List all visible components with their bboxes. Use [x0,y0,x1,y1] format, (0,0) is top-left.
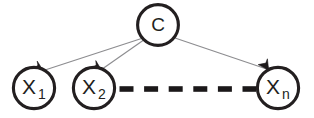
edge-c-to-x1 [44,39,142,71]
node-xn-label: X [266,75,280,98]
node-x1-subscript: 1 [38,86,46,102]
diagram-canvas: C X 1 X 2 X n [0,0,314,118]
node-x2[interactable]: X 2 [73,67,114,108]
node-x2-label: X [82,75,96,98]
edge-c-to-xn [175,38,270,70]
node-x2-subscript: 2 [98,86,106,102]
naive-bayes-diagram: C X 1 X 2 X n [0,0,314,118]
node-c[interactable]: C [138,5,179,46]
arrowhead-group [31,59,269,71]
node-x1[interactable]: X 1 [13,67,54,108]
node-c-label: C [151,14,165,35]
node-x1-label: X [22,75,36,98]
node-xn-subscript: n [282,86,290,102]
node-xn[interactable]: X n [257,67,298,108]
